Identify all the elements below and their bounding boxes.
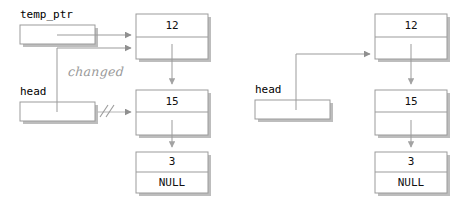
left-head-label: head: [20, 85, 47, 98]
left-temp-ptr-label: temp_ptr: [20, 8, 73, 21]
left-node-15-value: 15: [136, 95, 208, 108]
left-temp-ptr-box: [20, 25, 98, 47]
left-node-12-value: 12: [136, 19, 208, 32]
right-node-3-next-null: NULL: [375, 176, 447, 189]
right-node-3-value: 3: [375, 155, 447, 168]
diagram-canvas: temp_ptr head changed 12 15 3 NULL head …: [0, 0, 460, 223]
left-node-3-value: 3: [136, 155, 208, 168]
broken-link-slash-marker: [100, 105, 114, 117]
left-node-3-next-null: NULL: [136, 176, 208, 189]
changed-annotation-label: changed: [67, 64, 124, 79]
right-node-15-value: 15: [375, 95, 447, 108]
left-head-box: [20, 102, 98, 124]
diagram-vector-layer: [0, 0, 460, 223]
right-head-label: head: [255, 83, 282, 96]
right-head-box: [255, 100, 333, 122]
right-node-12-value: 12: [375, 19, 447, 32]
